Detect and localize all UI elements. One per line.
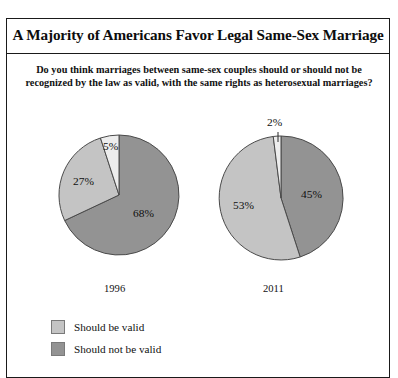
slice-label-2011-no-opinion: 2%: [267, 116, 282, 128]
slice-label-1996-should-be-valid: 27%: [73, 175, 94, 187]
legend: Should be valid Should not be valid: [51, 316, 161, 360]
year-label-2011: 2011: [263, 283, 284, 294]
legend-label-should-be-valid: Should be valid: [74, 321, 144, 333]
legend-label-should-not-be-valid: Should not be valid: [74, 343, 161, 355]
legend-item-should-not-be-valid: Should not be valid: [51, 338, 161, 360]
slice-label-1996-no-opinion: 5%: [103, 140, 118, 152]
legend-swatch-should-be-valid: [51, 320, 65, 334]
year-label-1996: 1996: [104, 283, 125, 294]
page-title: A Majority of Americans Favor Legal Same…: [7, 26, 389, 44]
pie-chart-1996: 68% 27% 5%: [55, 131, 183, 259]
slice-label-1996-should-not-be-valid: 68%: [133, 207, 154, 219]
legend-item-should-be-valid: Should be valid: [51, 316, 161, 338]
slice-label-2011-should-be-valid: 53%: [233, 199, 254, 211]
pie-chart-2011: 45% 53% 2%: [215, 132, 347, 264]
figure-frame: A Majority of Americans Favor Legal Same…: [6, 18, 390, 378]
legend-swatch-should-not-be-valid: [51, 342, 65, 356]
chart-subtitle: Do you think marriages between same-sex …: [19, 63, 379, 89]
title-divider: [7, 53, 389, 54]
slice-label-2011-should-not-be-valid: 45%: [301, 188, 322, 200]
